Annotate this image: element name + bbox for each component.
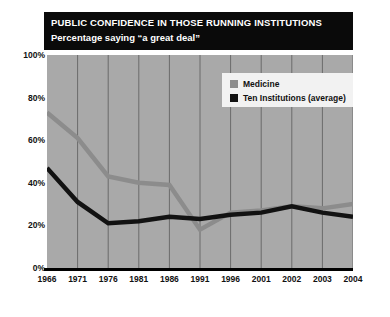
y-tick-label: 0%: [5, 263, 45, 273]
x-axis-labels: 1966197119761981198619911996200120022003…: [47, 274, 353, 290]
y-tick-label: 40%: [5, 178, 45, 188]
legend-label-ten-institutions: Ten Institutions (average): [243, 93, 346, 103]
legend-item-medicine: Medicine: [230, 77, 353, 90]
chart-subtitle: Percentage saying “a great deal”: [51, 31, 353, 44]
legend-swatch-medicine: [230, 80, 238, 88]
y-tick-label: 80%: [5, 93, 45, 103]
legend-item-ten-institutions: Ten Institutions (average): [230, 91, 353, 104]
legend-label-medicine: Medicine: [243, 79, 279, 89]
legend-swatch-ten-institutions: [230, 94, 238, 102]
x-tick-label: 2004: [333, 274, 373, 284]
x-axis-baseline: [44, 268, 353, 271]
page-title: PUBLIC CONFIDENCE IN THOSE RUNNING INSTI…: [51, 16, 353, 29]
chart-legend: Medicine Ten Institutions (average): [222, 73, 353, 107]
chart-figure: PUBLIC CONFIDENCE IN THOSE RUNNING INSTI…: [0, 0, 390, 317]
chart-title-box: PUBLIC CONFIDENCE IN THOSE RUNNING INSTI…: [44, 12, 353, 50]
y-tick-label: 100%: [5, 50, 45, 60]
y-tick-label: 20%: [5, 220, 45, 230]
y-tick-label: 60%: [5, 135, 45, 145]
